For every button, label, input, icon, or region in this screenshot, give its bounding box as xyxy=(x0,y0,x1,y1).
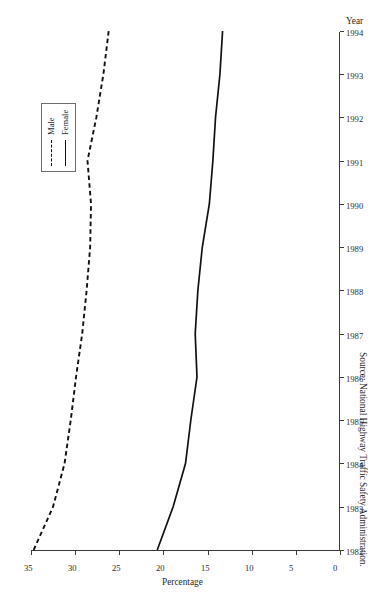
y-tick-label: 5 xyxy=(289,563,293,573)
y-tick-label: 10 xyxy=(245,563,254,573)
x-tick-mark xyxy=(340,161,344,162)
rotated-chart-container: Male Female 1982198319841985198619871988… xyxy=(0,0,389,601)
y-axis-title: Percentage xyxy=(162,577,203,587)
x-tick-label: 1991 xyxy=(346,158,363,168)
x-tick-mark xyxy=(340,420,344,421)
series-layer xyxy=(31,31,340,550)
y-tick-label: 15 xyxy=(201,563,210,573)
x-tick-label: 1994 xyxy=(346,28,363,38)
legend-label-male: Male xyxy=(46,117,57,135)
x-tick-mark xyxy=(340,464,344,465)
chart-figure: Male Female 1982198319841985198619871988… xyxy=(0,0,389,601)
y-tick-mark xyxy=(31,551,32,555)
x-tick-mark xyxy=(340,247,344,248)
x-tick-label: 1993 xyxy=(346,71,363,81)
y-tick-mark xyxy=(208,551,209,555)
x-tick-mark xyxy=(340,31,344,32)
legend-item-male: Male xyxy=(46,110,57,166)
x-tick-label: 1987 xyxy=(346,331,363,341)
legend-key-dashed-icon xyxy=(51,140,52,166)
y-tick-mark xyxy=(252,551,253,555)
y-tick-mark xyxy=(163,551,164,555)
series-line-female xyxy=(157,31,222,550)
x-tick-label: 1988 xyxy=(346,288,363,298)
x-tick-label: 1992 xyxy=(346,115,363,125)
source-note: Source: National Highway Traffic Safety … xyxy=(358,352,368,567)
chart-legend: Male Female xyxy=(41,103,76,172)
plot-area: Male Female xyxy=(31,32,340,551)
y-tick-mark xyxy=(340,551,341,555)
x-tick-label: 1989 xyxy=(346,244,363,254)
y-tick-mark xyxy=(296,551,297,555)
y-tick-label: 20 xyxy=(156,563,165,573)
y-tick-label: 30 xyxy=(68,563,77,573)
legend-key-solid-icon xyxy=(65,140,66,166)
x-tick-mark xyxy=(340,118,344,119)
y-tick-label: 25 xyxy=(112,563,121,573)
x-axis-title: Year xyxy=(346,16,363,26)
x-tick-mark xyxy=(340,291,344,292)
legend-label-female: Female xyxy=(60,110,71,135)
x-tick-mark xyxy=(340,377,344,378)
x-tick-mark xyxy=(340,74,344,75)
chart-canvas: Male Female 1982198319841985198619871988… xyxy=(0,0,389,601)
x-tick-mark xyxy=(340,204,344,205)
y-tick-mark xyxy=(119,551,120,555)
y-tick-mark xyxy=(75,551,76,555)
x-tick-label: 1990 xyxy=(346,201,363,211)
x-tick-mark xyxy=(340,334,344,335)
legend-item-female: Female xyxy=(60,110,71,166)
y-tick-label: 0 xyxy=(333,563,337,573)
x-tick-mark xyxy=(340,507,344,508)
y-tick-label: 35 xyxy=(24,563,33,573)
